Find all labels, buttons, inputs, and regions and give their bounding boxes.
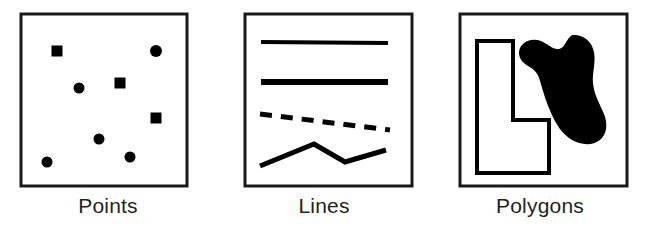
- circle-marker-3: [94, 134, 105, 145]
- lines-panel-canvas: [216, 0, 432, 196]
- circle-marker-2: [74, 83, 85, 94]
- polygons-panel: Polygons: [432, 0, 648, 250]
- polygons-panel-label: Polygons: [432, 192, 648, 220]
- points-panel-label: Points: [0, 192, 216, 220]
- points-panel: Points: [0, 0, 216, 250]
- lines-panel-label: Lines: [216, 192, 432, 220]
- square-marker-1: [52, 46, 63, 57]
- lines-panel: Lines: [216, 0, 432, 250]
- square-marker-2: [115, 78, 126, 89]
- square-marker-3: [151, 113, 162, 124]
- points-panel-canvas: [0, 0, 216, 196]
- circle-marker-5: [42, 157, 53, 168]
- circle-marker-4: [125, 152, 136, 163]
- polygons-panel-canvas: [432, 0, 648, 196]
- solid-line-thin: [261, 42, 388, 43]
- vector-data-types-figure: Points Lines Polygons: [0, 0, 648, 250]
- circle-marker-1: [150, 45, 162, 57]
